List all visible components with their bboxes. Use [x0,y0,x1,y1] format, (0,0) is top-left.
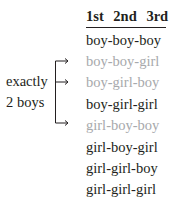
bracket-arrows-icon [0,0,174,208]
